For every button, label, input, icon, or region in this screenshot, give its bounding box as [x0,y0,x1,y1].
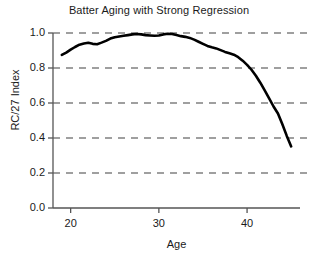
chart-container: Batter Aging with Strong Regression 0.00… [0,0,318,260]
x-tick-label: 40 [235,217,259,229]
y-tick-label: 0.0 [19,201,45,213]
x-tick-label: 30 [147,217,171,229]
y-tick-label: 0.8 [19,61,45,73]
y-tick-label: 0.4 [19,131,45,143]
y-tick-label: 0.6 [19,96,45,108]
data-line-rc27-index [62,34,291,147]
x-tick-label: 20 [59,217,83,229]
gridlines [53,33,312,173]
axes [53,33,300,208]
y-axis-title: RC/27 Index [9,58,21,142]
axis-ticks [48,33,247,213]
data-line-group [62,34,291,147]
y-tick-label: 0.2 [19,166,45,178]
x-axis-title: Age [53,238,300,250]
y-tick-label: 1.0 [19,26,45,38]
